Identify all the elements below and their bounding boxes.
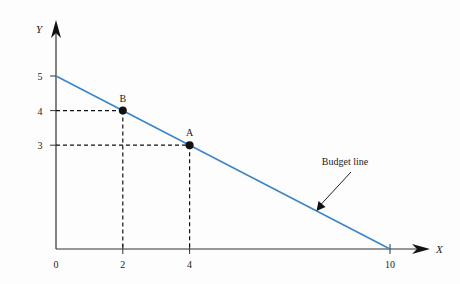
x-tick-label: 10	[385, 259, 395, 270]
point-b	[119, 107, 127, 115]
y-tick-label: 3	[38, 140, 43, 151]
y-tick-label: 5	[38, 71, 43, 82]
x-axis-label: X	[435, 243, 444, 255]
point-a	[186, 141, 194, 149]
y-tick-label: 4	[38, 106, 43, 117]
point-label-b: B	[119, 93, 126, 104]
x-tick-label: 0	[54, 259, 59, 270]
budget-line-chart: YX02410345BABudget line	[0, 0, 460, 284]
x-tick-label: 4	[187, 259, 192, 270]
annotation-arrow-line	[321, 172, 351, 205]
y-axis-label: Y	[36, 23, 44, 35]
annotation-arrowhead-icon	[317, 201, 326, 211]
budget-line-annotation: Budget line	[322, 156, 369, 167]
chart-container: YX02410345BABudget line	[0, 0, 460, 284]
point-label-a: A	[186, 127, 194, 138]
x-tick-label: 2	[120, 259, 125, 270]
